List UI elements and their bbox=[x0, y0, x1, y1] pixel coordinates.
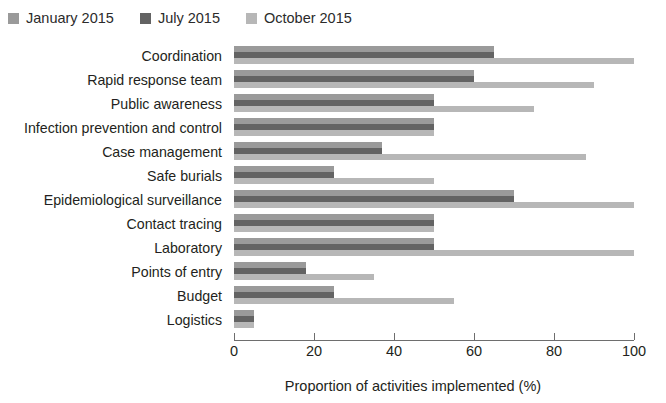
category-label: Infection prevention and control bbox=[24, 121, 222, 136]
category-label-row: Logistics bbox=[167, 308, 222, 332]
x-axis-tick bbox=[474, 333, 475, 340]
bar bbox=[234, 202, 634, 208]
x-axis-tick-label: 80 bbox=[546, 343, 562, 359]
legend-entry[interactable]: October 2015 bbox=[246, 11, 352, 25]
x-axis-tick-label: 100 bbox=[622, 343, 646, 359]
x-axis-tick-label: 60 bbox=[466, 343, 482, 359]
x-axis-title: Proportion of activities implemented (%) bbox=[285, 378, 541, 394]
bar-group bbox=[234, 92, 634, 116]
bar bbox=[234, 130, 434, 136]
plot-area: CoordinationRapid response teamPublic aw… bbox=[0, 44, 666, 344]
x-axis-tick bbox=[314, 333, 315, 340]
bar bbox=[234, 226, 434, 232]
bar bbox=[234, 274, 374, 280]
x-axis-tick-label: 20 bbox=[306, 343, 322, 359]
bar bbox=[234, 322, 254, 328]
category-label: Laboratory bbox=[154, 241, 222, 256]
bar bbox=[234, 82, 594, 88]
bar bbox=[234, 178, 434, 184]
x-axis: 020406080100 bbox=[234, 340, 634, 341]
category-label: Case management bbox=[102, 145, 222, 160]
x-axis-tick bbox=[234, 333, 235, 340]
legend-label: January 2015 bbox=[26, 11, 114, 25]
bar-group bbox=[234, 284, 634, 308]
category-label: Coordination bbox=[142, 49, 222, 64]
category-label: Safe burials bbox=[147, 169, 222, 184]
category-label-row: Infection prevention and control bbox=[24, 116, 222, 140]
category-label: Rapid response team bbox=[87, 73, 222, 88]
bar-group bbox=[234, 164, 634, 188]
x-axis-tick bbox=[394, 333, 395, 340]
category-label-row: Laboratory bbox=[154, 236, 222, 260]
category-label-row: Rapid response team bbox=[87, 68, 222, 92]
bar bbox=[234, 106, 534, 112]
bar bbox=[234, 250, 634, 256]
category-label: Budget bbox=[177, 289, 222, 304]
x-axis-tick bbox=[634, 333, 635, 340]
x-axis-tick-label: 40 bbox=[386, 343, 402, 359]
category-label: Contact tracing bbox=[127, 217, 222, 232]
legend-label: July 2015 bbox=[158, 11, 220, 25]
bar-group bbox=[234, 140, 634, 164]
bar-group bbox=[234, 260, 634, 284]
bar bbox=[234, 298, 454, 304]
legend-entry[interactable]: January 2015 bbox=[8, 11, 114, 25]
bar-group bbox=[234, 116, 634, 140]
legend-swatch-october bbox=[246, 13, 257, 24]
category-label-row: Points of entry bbox=[131, 260, 222, 284]
category-label-row: Case management bbox=[102, 140, 222, 164]
bar-group bbox=[234, 188, 634, 212]
bar-group bbox=[234, 308, 634, 332]
x-axis-tick bbox=[554, 333, 555, 340]
x-axis-line bbox=[234, 340, 634, 341]
x-axis-tick-label: 0 bbox=[230, 343, 238, 359]
category-axis-labels: CoordinationRapid response teamPublic aw… bbox=[0, 44, 228, 332]
category-label: Public awareness bbox=[111, 97, 222, 112]
bar-group bbox=[234, 212, 634, 236]
legend-entry[interactable]: July 2015 bbox=[140, 11, 220, 25]
bars-container bbox=[234, 44, 634, 332]
legend-swatch-july bbox=[140, 13, 151, 24]
chart-legend: January 2015July 2015October 2015 bbox=[8, 9, 352, 27]
bar-group bbox=[234, 68, 634, 92]
category-label-row: Epidemiological surveillance bbox=[44, 188, 222, 212]
category-label: Points of entry bbox=[131, 265, 222, 280]
category-label-row: Budget bbox=[177, 284, 222, 308]
bar bbox=[234, 58, 634, 64]
category-label-row: Coordination bbox=[142, 44, 222, 68]
x-axis-title-wrap: Proportion of activities implemented (%) bbox=[0, 378, 666, 394]
bar bbox=[234, 154, 586, 160]
category-label: Logistics bbox=[167, 313, 222, 328]
bar-group bbox=[234, 44, 634, 68]
category-label-row: Contact tracing bbox=[127, 212, 222, 236]
category-label-row: Safe burials bbox=[147, 164, 222, 188]
bar-group bbox=[234, 236, 634, 260]
legend-swatch-january bbox=[8, 13, 19, 24]
legend-label: October 2015 bbox=[264, 11, 352, 25]
category-label-row: Public awareness bbox=[111, 92, 222, 116]
category-label: Epidemiological surveillance bbox=[44, 193, 222, 208]
